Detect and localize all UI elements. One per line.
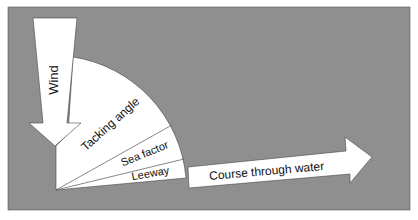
sailing-angles-diagram: Wind Tacking angle Sea factor Leeway Cou… (0, 0, 418, 220)
wind-label: Wind (46, 65, 61, 95)
